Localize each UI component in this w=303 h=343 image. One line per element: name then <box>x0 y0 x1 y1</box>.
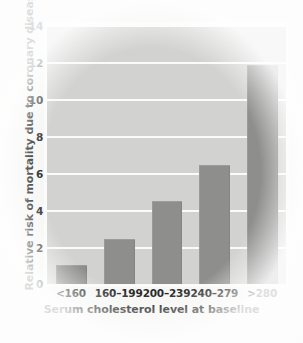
x-tick-2: 200–239 <box>143 287 191 303</box>
y-axis-label-wrap: Relative risk of mortality due to corona… <box>0 0 40 310</box>
bar-2 <box>152 201 183 284</box>
bar-chart: 14 12 10 8 6 4 2 0 <160 160–199 200–239 … <box>0 0 303 343</box>
gridline-14 <box>47 25 286 27</box>
figure-page: 14 12 10 8 6 4 2 0 <160 160–199 200–239 … <box>0 0 303 343</box>
x-axis-label: Serum cholesterol level at baseline <box>0 303 303 316</box>
x-axis-ticks: <160 160–199 200–239 240–279 >280 <box>47 287 286 303</box>
x-tick-0: <160 <box>47 287 95 303</box>
bar-3 <box>199 165 230 284</box>
x-tick-4: >280 <box>238 287 286 303</box>
bar-0 <box>56 265 87 285</box>
x-tick-3: 240–279 <box>190 287 238 303</box>
bar-1 <box>104 239 135 284</box>
x-tick-1: 160–199 <box>95 287 143 303</box>
plot-area <box>47 25 286 284</box>
bar-4 <box>247 65 278 284</box>
y-axis-label: Relative risk of mortality due to corona… <box>23 11 36 291</box>
gridline-12 <box>47 62 286 64</box>
